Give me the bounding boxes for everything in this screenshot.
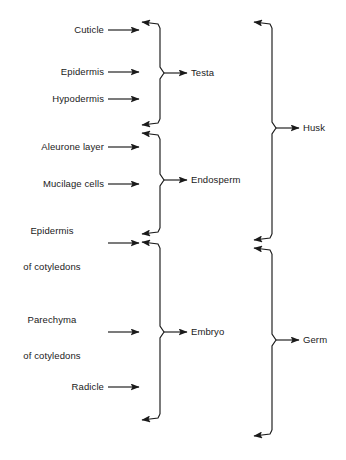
brace-testa <box>142 22 187 125</box>
tissue-label-line-1: Epidermis <box>0 225 104 237</box>
tissue-label-parechyma-of-cotyledons: Parechyma of cotyledons <box>0 290 104 386</box>
group-label-testa: Testa <box>191 67 214 79</box>
group-label-endosperm: Endosperm <box>191 174 240 186</box>
tissue-label-radicle: Radicle <box>0 381 104 393</box>
tissue-label-epidermis: Epidermis <box>0 66 104 78</box>
tissue-label-line-1: Parechyma <box>0 314 104 326</box>
tissue-label-aleurone-layer: Aleurone layer <box>0 141 104 153</box>
tissue-label-mucilage-cells: Mucilage cells <box>0 178 104 190</box>
brace-endosperm <box>142 133 187 234</box>
tissue-label-cuticle: Cuticle <box>0 24 104 36</box>
seed-structure-diagram: Cuticle Epidermis Hypodermis Aleurone la… <box>0 0 346 460</box>
brace-germ <box>254 248 299 436</box>
tissue-label-line-2: of cotyledons <box>0 350 104 362</box>
group-label-embryo: Embryo <box>191 326 224 338</box>
brace-husk <box>254 22 299 240</box>
tissue-label-hypodermis: Hypodermis <box>0 93 104 105</box>
brace-embryo <box>142 242 187 420</box>
tissue-label-epidermis-of-cotyledons: Epidermis of cotyledons <box>0 201 104 297</box>
tissue-label-line-2: of cotyledons <box>0 261 104 273</box>
group-label-germ: Germ <box>303 334 327 346</box>
group-label-husk: Husk <box>303 122 325 134</box>
